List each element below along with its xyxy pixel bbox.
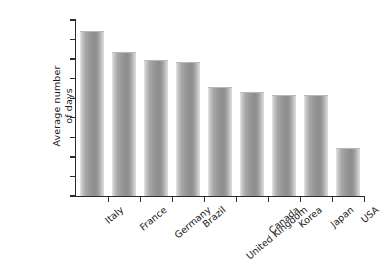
bar: [80, 31, 104, 196]
bar: [112, 52, 136, 196]
y-axis-tick-mark: [70, 98, 75, 99]
y-axis-tick-mark: [70, 176, 75, 177]
y-axis-tick-mark: [70, 39, 75, 40]
x-axis-tick-mark: [268, 197, 269, 202]
y-axis-tick-mark: [70, 19, 75, 20]
x-axis-line: [75, 196, 365, 197]
bar: [208, 87, 232, 196]
x-axis-label: Japan: [328, 204, 355, 229]
y-axis-title-line-1: Average number: [51, 65, 63, 146]
x-axis-label: France: [137, 204, 168, 233]
x-axis-label-text: Italy: [103, 204, 126, 226]
x-axis-tick-mark: [364, 197, 365, 202]
x-axis-tick-mark: [108, 197, 109, 202]
x-axis-label-text: Japan: [328, 204, 355, 229]
plot-area: [76, 20, 364, 196]
bar: [176, 62, 200, 196]
x-axis-tick-mark: [140, 197, 141, 202]
y-axis-tick-mark: [70, 156, 75, 157]
y-axis-tick-mark: [70, 78, 75, 79]
x-axis-tick-mark: [332, 197, 333, 202]
bar: [304, 95, 328, 196]
x-axis-tick-mark: [300, 197, 301, 202]
x-axis-label: USA: [359, 204, 381, 225]
bar: [240, 92, 264, 196]
y-axis-title-line-2: of days: [63, 88, 75, 124]
bar: [336, 148, 360, 196]
y-axis-tick-mark: [70, 195, 75, 196]
y-axis-tick-mark: [70, 117, 75, 118]
x-axis-label: Italy: [103, 204, 126, 226]
bar: [272, 95, 296, 196]
x-axis-tick-mark: [236, 197, 237, 202]
bar: [144, 60, 168, 196]
x-axis-tick-mark: [204, 197, 205, 202]
x-axis-tick-mark: [172, 197, 173, 202]
y-axis-tick-mark: [70, 58, 75, 59]
x-axis-label-text: USA: [359, 204, 381, 225]
y-axis-tick-mark: [70, 137, 75, 138]
x-axis-label-text: France: [137, 204, 168, 233]
